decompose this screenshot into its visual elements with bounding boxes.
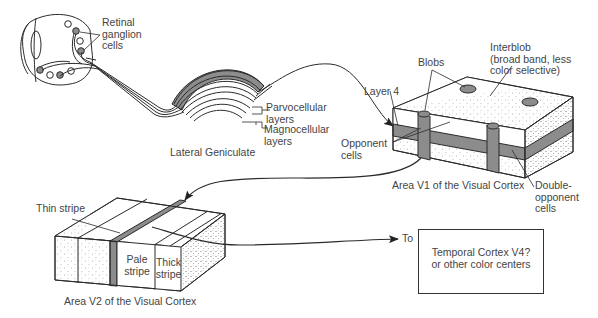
- thick-stripe-label: Thick stripe: [155, 257, 182, 280]
- parvocellular-label: Parvocellular layers: [266, 102, 327, 125]
- v1-title: Area V1 of the Visual Cortex: [392, 180, 524, 192]
- magnocellular-label: Magnocellular layers: [264, 124, 329, 147]
- blobs-label: Blobs: [418, 57, 444, 69]
- temporal-cortex-box: Temporal Cortex V4? or other color cente…: [418, 229, 544, 294]
- v1-block: [390, 66, 573, 187]
- arrow-v1-to-v2: [185, 158, 421, 200]
- eye-diagram: [21, 14, 100, 85]
- to-label: To: [402, 233, 413, 245]
- retinal-ganglion-label: Retinal ganglion cells: [102, 17, 142, 52]
- lgn-title: Lateral Geniculate: [170, 147, 255, 159]
- v2-title: Area V2 of the Visual Cortex: [64, 296, 196, 308]
- lens: [31, 31, 41, 59]
- opponent-cells-label: Opponent cells: [341, 138, 387, 161]
- temporal-cortex-text: Temporal Cortex V4? or other color cente…: [419, 247, 543, 270]
- interblob-label: Interblob (broad band, less color select…: [490, 42, 571, 77]
- pale-stripe-label: Pale stripe: [119, 254, 155, 277]
- thin-stripe-label: Thin stripe: [36, 203, 85, 215]
- double-opponent-label: Double- opponent cells: [535, 180, 579, 215]
- layer4-label: Layer 4: [364, 86, 399, 98]
